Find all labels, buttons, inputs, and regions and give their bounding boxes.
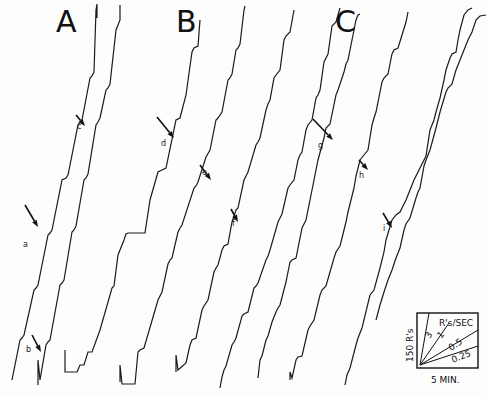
rate-legend: R's/SEC 3 1 0.5 0.25 150 R's 5 MIN. <box>405 313 478 385</box>
cumulative-record-b-record-2 <box>176 10 294 372</box>
arrow-annotations: abcdefghi <box>23 115 392 354</box>
arrowhead-b <box>35 345 41 352</box>
cumulative-record-a-record-3 <box>65 20 200 372</box>
arrow-f <box>231 209 235 216</box>
arrow-g <box>313 119 328 135</box>
arrow-c <box>76 115 81 121</box>
cumulative-record-c-record-2 <box>290 12 408 380</box>
arrow-label-f: f <box>232 219 235 228</box>
arrow-label-g: g <box>318 141 323 150</box>
arrow-label-c: c <box>77 122 81 131</box>
legend-rate-1: 1 <box>435 329 446 340</box>
arrow-b <box>32 335 38 346</box>
arrow-i <box>383 213 388 222</box>
arrow-label-e: e <box>202 168 207 177</box>
cumulative-record-c-record-1 <box>258 14 360 378</box>
arrow-label-a: a <box>23 240 28 249</box>
legend-x-scale-label: 5 MIN. <box>431 375 460 385</box>
panel-letters: ABC <box>56 4 356 39</box>
panel-label-c: C <box>335 4 356 39</box>
arrow-label-d: d <box>161 139 166 148</box>
figure-stage: abcdefghi ABC R's/SEC 3 1 0.5 0.25 150 R… <box>0 0 487 395</box>
arrow-label-b: b <box>26 345 31 354</box>
cumulative-record-a-record-1 <box>12 4 97 380</box>
arrow-label-i: i <box>383 224 385 233</box>
arrow-d <box>157 117 170 133</box>
cumulative-records-figure: abcdefghi ABC R's/SEC 3 1 0.5 0.25 150 R… <box>0 0 487 395</box>
arrow-a <box>25 205 34 221</box>
panel-label-b: B <box>176 4 197 39</box>
legend-rate-title: R's/SEC <box>439 318 473 328</box>
cumulative-record-c-record-4 <box>376 15 486 320</box>
cumulative-record-c-record-3 <box>345 8 472 385</box>
cumulative-record-a-record-2 <box>38 5 120 385</box>
cumulative-record-b-record-3 <box>220 8 340 388</box>
legend-rate-line-0 <box>420 313 429 365</box>
cumulative-record-b-record-1 <box>120 6 245 384</box>
legend-rate-line-1 <box>420 323 449 365</box>
panel-label-a: A <box>56 4 77 39</box>
arrow-label-h: h <box>359 171 364 180</box>
legend-y-scale-label: 150 R's <box>405 328 415 362</box>
arrowhead-a <box>32 220 38 227</box>
